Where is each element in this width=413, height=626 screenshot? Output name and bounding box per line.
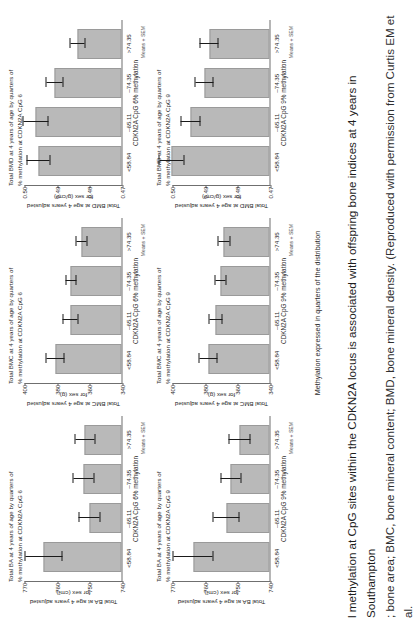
bar-item[interactable]: [24, 344, 121, 374]
bar-item[interactable]: [24, 107, 121, 137]
bar-item[interactable]: [24, 542, 121, 572]
bar-item[interactable]: [24, 227, 121, 257]
y-axis-label-line1: Total BA at age 4 years adjusted: [29, 597, 116, 606]
bar-item[interactable]: [172, 425, 269, 455]
error-bar: [62, 319, 77, 320]
bar-item[interactable]: [172, 68, 269, 98]
bar[interactable]: [239, 425, 269, 455]
bar-item[interactable]: [24, 266, 121, 296]
x-tick-label: –65.11: [124, 108, 131, 138]
x-tick-label: –65.11: [272, 306, 279, 336]
y-axis-label: Total BMD at age 4 years adjusted for se…: [26, 192, 119, 209]
bar-item[interactable]: [172, 227, 269, 257]
bar-item[interactable]: [172, 266, 269, 296]
bar[interactable]: [230, 464, 269, 494]
bar-item[interactable]: [172, 146, 269, 176]
bar[interactable]: [193, 542, 269, 572]
bar-group: [172, 20, 269, 185]
bar-item[interactable]: [24, 305, 121, 335]
bar-item[interactable]: [172, 344, 269, 374]
y-axis-label-line2: for sex (cm²): [177, 588, 264, 597]
x-tick-label: –74.35: [124, 464, 131, 494]
y-axis-label-line1: Total BMC at age 4 years adjusted: [174, 399, 267, 408]
chart-panel-ba-cpg9: Total BA at 4 years of age by quarters o…: [154, 416, 294, 612]
x-tick-label: >74.35: [124, 425, 131, 455]
bar[interactable]: [70, 266, 121, 296]
x-tick-labels: <58.84–65.11–74.35>74.35: [122, 416, 131, 582]
error-bar: [209, 319, 222, 320]
error-bar: [180, 121, 200, 122]
bar[interactable]: [43, 542, 121, 572]
y-axis-label-box: Total BA at age 4 years adjusted for sex…: [172, 582, 270, 612]
series-note: Means + SEM: [286, 218, 293, 384]
bar[interactable]: [215, 305, 269, 335]
bar[interactable]: [190, 107, 269, 137]
x-tick-label: –74.35: [272, 464, 279, 494]
x-tick-label: –74.35: [124, 68, 131, 98]
error-bar: [46, 358, 64, 359]
bar-item[interactable]: [24, 425, 121, 455]
bar-item[interactable]: [24, 146, 121, 176]
bar-item[interactable]: [24, 68, 121, 98]
bar-item[interactable]: [24, 503, 121, 533]
y-tick-label: 0.48: [86, 187, 93, 199]
bar-group: [172, 218, 269, 383]
error-bar: [25, 556, 62, 557]
x-tick-label: –74.35: [272, 266, 279, 296]
y-axis-label-box: Total BMD at age 4 years adjusted for se…: [24, 186, 122, 216]
x-tick-label: –65.11: [124, 504, 131, 534]
y-axis-label: Total BA at age 4 years adjusted for sex…: [29, 588, 116, 605]
bar-item[interactable]: [172, 542, 269, 572]
panels-area: Total BA at 4 years of age by quarters o…: [0, 0, 306, 626]
bar-item[interactable]: [24, 29, 121, 59]
bar-item[interactable]: [172, 29, 269, 59]
bar-item[interactable]: [24, 464, 121, 494]
y-axis-label-box: Total BA at age 4 years adjusted for sex…: [24, 582, 122, 612]
x-tick-labels: <58.84–65.11–74.35>74.35: [270, 20, 279, 186]
bar[interactable]: [171, 146, 269, 176]
y-tick-label: 740: [267, 583, 274, 593]
y-axis-label-line1: Total BMC at age 4 years adjusted: [26, 399, 119, 408]
x-tick-label: >74.35: [272, 425, 279, 455]
panel-title: Total BMD at 4 years of age by quarters …: [6, 20, 24, 186]
error-bar: [218, 241, 229, 242]
plot-area: 740750760770: [172, 416, 270, 582]
x-axis-label: CDKN2A CpG 6% methylation: [131, 218, 139, 384]
bar[interactable]: [89, 503, 121, 533]
error-bar: [78, 517, 99, 518]
x-tick-labels: <58.84–65.11–74.35>74.35: [270, 416, 279, 582]
bar-group: [172, 416, 269, 581]
plot-area: 0.470.480.490.50: [172, 20, 270, 186]
x-tick-label: >74.35: [272, 227, 279, 257]
y-tick-label: 750: [234, 583, 241, 593]
x-axis-label: CDKN2A CpG 9% methylation: [279, 416, 287, 582]
panel-title-line2: % methylation at CDKN2A CpG 9: [163, 218, 172, 384]
plot-area: 340360380400: [172, 218, 270, 384]
panel-title-line2: % methylation at CDKN2A CpG 9: [163, 416, 172, 582]
bar-item[interactable]: [172, 503, 269, 533]
bar-item[interactable]: [172, 107, 269, 137]
y-axis-label-line1: Total BMD at age 4 years adjusted: [26, 201, 119, 210]
panel-title-line2: % methylation at CDKN2A CpG 6: [15, 218, 24, 384]
plot-area: 340360380400: [24, 218, 122, 384]
x-tick-label: <58.84: [272, 345, 279, 375]
bar[interactable]: [54, 68, 121, 98]
bar[interactable]: [223, 227, 269, 257]
bar[interactable]: [220, 266, 269, 296]
chart-panel-ba-cpg6: Total BA at 4 years of age by quarters o…: [6, 416, 146, 612]
caption-line-1: l methylation at CpG sites within the CD…: [342, 4, 380, 618]
rotated-figure-wrapper: Total BA at 4 years of age by quarters o…: [0, 0, 413, 626]
y-tick-label: 340: [119, 385, 126, 395]
bar[interactable]: [226, 503, 269, 533]
bar-item[interactable]: [172, 305, 269, 335]
x-axis-label: CDKN2A CpG 9% methylation: [279, 218, 287, 384]
panel-title-line1: Total BA at 4 years of age by quarters o…: [154, 416, 163, 582]
bar[interactable]: [84, 425, 121, 455]
panel-title: Total BA at 4 years of age by quarters o…: [6, 416, 24, 582]
y-tick-label: 0.49: [53, 187, 60, 199]
x-tick-labels: <58.84–65.11–74.35>74.35: [270, 218, 279, 384]
y-axis-label-line2: for sex (g/cm²): [26, 192, 119, 201]
error-bar: [228, 439, 250, 440]
bar[interactable]: [83, 464, 121, 494]
bar-item[interactable]: [172, 464, 269, 494]
